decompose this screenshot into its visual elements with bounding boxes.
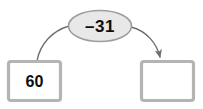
connector-start-to-operator [37,26,69,61]
start-box-label: 60 [26,73,44,90]
arrow-diagram: –31 60 [0,0,203,109]
operator-node-label: –31 [85,17,115,36]
end-box[interactable] [142,62,194,101]
connector-operator-to-end [131,27,160,57]
diagram-canvas: –31 60 [0,0,203,109]
